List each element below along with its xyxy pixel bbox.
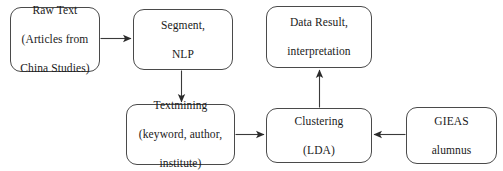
node-textmining-line2: (keyword, author, [139, 127, 222, 142]
node-textmining-line1: Textmining [139, 98, 222, 113]
node-textmining-label: Textmining (keyword, author, institute) [136, 84, 225, 171]
node-textmining[interactable]: Textmining (keyword, author, institute) [126, 104, 235, 165]
node-gieas-line1: GIEAS [432, 114, 472, 129]
node-raw-text-label: Raw Text (Articles from China Studies) [17, 0, 92, 90]
node-segment-line1: Segment, [161, 18, 205, 33]
flowchart-diagram: Raw Text (Articles from China Studies) S… [0, 0, 503, 171]
node-textmining-line3: institute) [139, 156, 222, 171]
node-raw-text[interactable]: Raw Text (Articles from China Studies) [10, 7, 100, 72]
node-clustering[interactable]: Clustering (LDA) [266, 108, 372, 163]
node-segment-label: Segment, NLP [158, 3, 208, 76]
node-clustering-line2: (LDA) [295, 143, 344, 158]
node-raw-text-line2: (Articles from [20, 32, 89, 47]
node-data-result[interactable]: Data Result, interpretation [266, 6, 372, 68]
node-gieas[interactable]: GIEAS alumnus [406, 107, 497, 164]
node-data-result-label: Data Result, interpretation [284, 1, 353, 74]
node-gieas-label: GIEAS alumnus [429, 99, 475, 171]
node-clustering-line1: Clustering [295, 114, 344, 129]
node-gieas-line2: alumnus [432, 143, 472, 158]
node-data-result-line2: interpretation [287, 44, 350, 59]
node-segment-line2: NLP [161, 47, 205, 62]
node-raw-text-line1: Raw Text [20, 3, 89, 18]
node-raw-text-line3: China Studies) [20, 61, 89, 76]
node-clustering-label: Clustering (LDA) [292, 99, 347, 171]
node-segment[interactable]: Segment, NLP [133, 9, 233, 70]
node-data-result-line1: Data Result, [287, 15, 350, 30]
